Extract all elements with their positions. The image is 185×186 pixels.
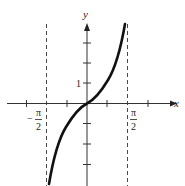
tangent-graph: y x 1 − π 2 π 2 xyxy=(0,0,185,186)
pos-pi-numerator: π xyxy=(131,107,136,118)
y-tick-label-1: 1 xyxy=(76,78,81,89)
y-axis-label: y xyxy=(82,8,88,20)
neg-pi-numerator: π xyxy=(36,107,41,118)
neg-pi-denominator: 2 xyxy=(36,121,41,132)
neg-sign: − xyxy=(27,113,33,124)
pos-pi-denominator: 2 xyxy=(131,121,136,132)
y-axis-arrow-icon xyxy=(84,23,90,31)
x-axis-label: x xyxy=(173,97,179,109)
